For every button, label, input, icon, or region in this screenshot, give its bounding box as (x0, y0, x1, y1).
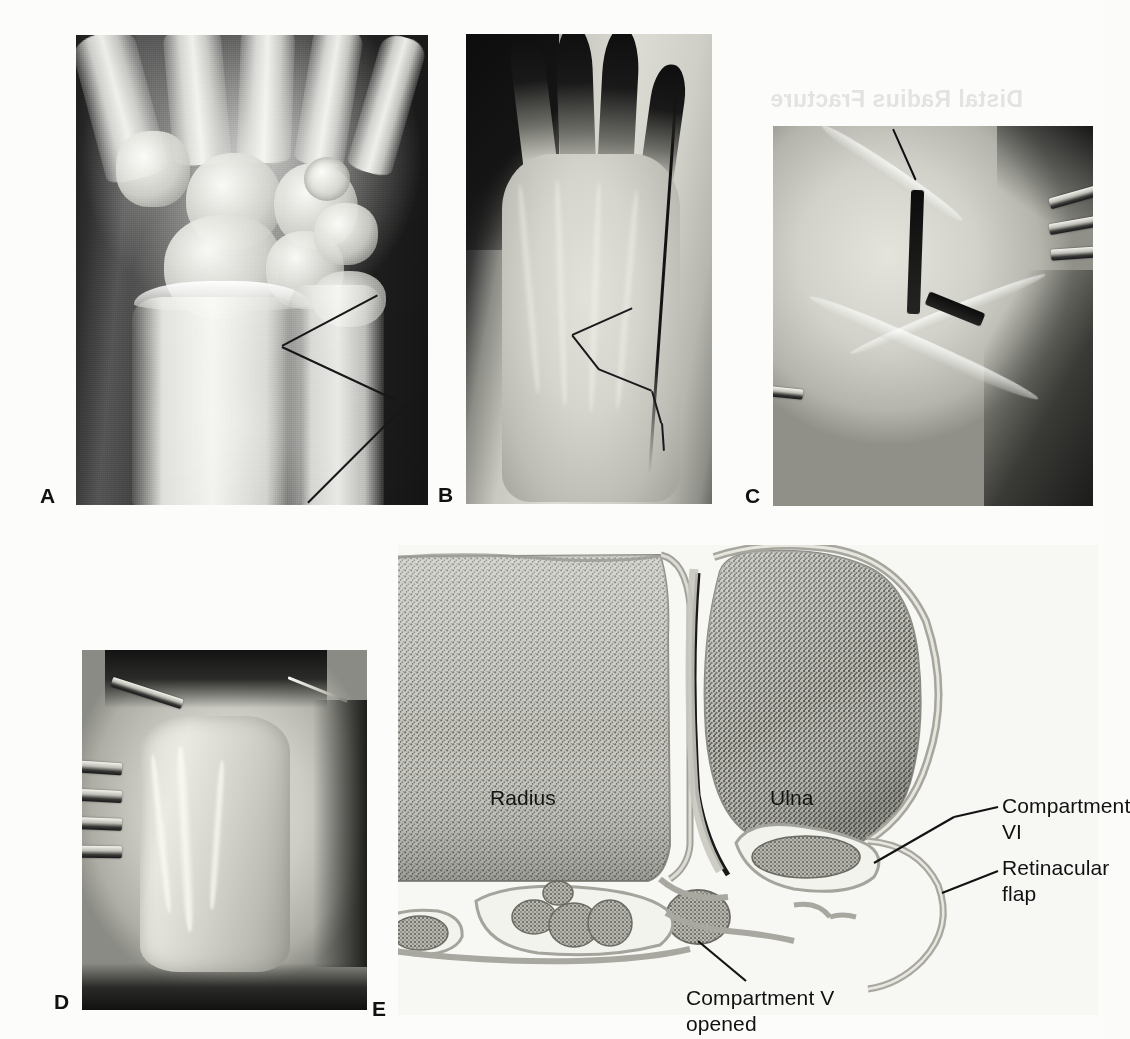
panel-e-cross-section-diagram: Radius Ulna Compartment VI Retinacular f… (398, 545, 1098, 1015)
label-compartment-v-opened: Compartment V opened (686, 985, 834, 1036)
self-retaining-retractor-tooth (82, 789, 122, 803)
leader-line-compartment-vi (954, 807, 998, 817)
radius-cross-section (398, 555, 670, 881)
leader-line-compartment-v (698, 941, 746, 981)
panel-letter-c: C (745, 484, 760, 508)
background-shadow (304, 700, 367, 966)
label-ulna: Ulna (770, 785, 814, 811)
panel-b-hand-incision: B (466, 34, 712, 504)
panel-letter-b: B (438, 483, 453, 507)
panel-letter-e: E (372, 997, 386, 1021)
panel-letter-a: A (40, 484, 55, 508)
panel-letter-d: D (54, 990, 69, 1014)
leader-line-retinacular-flap (942, 871, 998, 893)
panel-c-image (773, 126, 1093, 506)
panel-c-retinaculum-exposure: C (773, 126, 1093, 506)
label-retinacular-flap: Retinacular flap (1002, 855, 1109, 906)
label-radius: Radius (490, 785, 556, 811)
panel-e-canvas: Radius Ulna Compartment VI Retinacular f… (398, 545, 1098, 1015)
panel-a-image (76, 35, 428, 505)
self-retaining-retractor-tooth (82, 846, 122, 859)
panel-b-image (466, 34, 712, 504)
ghost-bleed-through-heading: Distal Radius Fracture (770, 86, 1023, 113)
self-retaining-retractor-tooth (82, 817, 122, 830)
label-compartment-vi: Compartment VI (1002, 793, 1130, 844)
cross-section-svg (398, 545, 1098, 1015)
panel-a-wrist-radiograph: A (76, 35, 428, 505)
panel-d-retinacular-flap: D (82, 650, 367, 1010)
background-shadow (997, 126, 1093, 225)
ecu-tendon (752, 836, 860, 878)
panel-d-image (82, 650, 367, 1010)
